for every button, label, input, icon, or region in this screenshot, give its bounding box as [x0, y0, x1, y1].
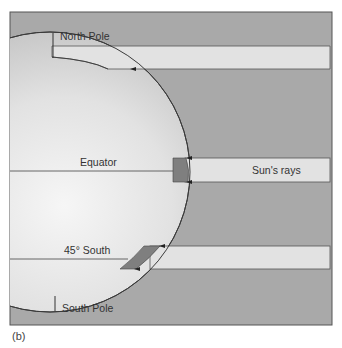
- south-45-label: 45° South: [64, 244, 110, 256]
- sun-rays-diagram: North Pole Equator Sun's rays 45° South …: [0, 0, 342, 348]
- figure-caption: (b): [12, 330, 25, 342]
- equator-patch: [173, 158, 189, 182]
- south-pole-label: South Pole: [62, 302, 114, 314]
- sun-rays-label: Sun's rays: [252, 164, 301, 176]
- south-45-beam: [150, 246, 330, 269]
- north-pole-label: North Pole: [60, 30, 110, 42]
- equator-label: Equator: [80, 156, 117, 168]
